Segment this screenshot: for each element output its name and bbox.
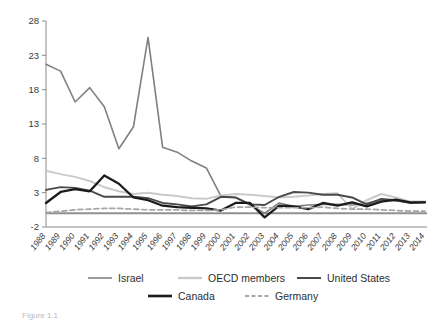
legend-label-germany[interactable]: Germany <box>275 290 319 302</box>
y-axis-tick-label: 13 <box>28 118 39 129</box>
legend-label-united-states[interactable]: United States <box>327 272 390 284</box>
legend-label-israel[interactable]: Israel <box>118 272 144 284</box>
y-axis-tick-label: 8 <box>34 153 39 164</box>
caption-label: Figure 1.1 <box>22 311 59 320</box>
y-axis-tick-label: 23 <box>28 50 39 61</box>
chart-container: 2823181383-2 198819891990199119921993199… <box>0 0 437 321</box>
y-axis-tick-label: 18 <box>28 84 39 95</box>
legend-label-oecd-members[interactable]: OECD members <box>208 272 285 284</box>
legend-label-canada[interactable]: Canada <box>178 290 215 302</box>
y-axis-tick-label: 28 <box>28 15 39 26</box>
y-axis-tick-label: 3 <box>34 187 39 198</box>
line-chart: 2823181383-2 198819891990199119921993199… <box>0 0 437 321</box>
y-axis-tick-label: -2 <box>31 221 39 232</box>
figure-caption: Figure 1.1 <box>22 311 59 320</box>
